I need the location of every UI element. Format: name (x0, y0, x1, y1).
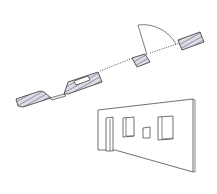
window-small (143, 127, 150, 138)
wall-segment-3 (132, 54, 150, 67)
window-1 (123, 117, 134, 137)
door-opening (106, 117, 113, 151)
window-3 (158, 116, 173, 140)
door-leaf (138, 25, 147, 55)
wall-segment-4 (178, 32, 204, 50)
diagram-canvas (0, 0, 217, 194)
sill (50, 94, 66, 100)
plan-view (16, 25, 204, 107)
elevation-view (98, 99, 195, 172)
opening-line-2 (150, 43, 180, 53)
door-swing-arc (138, 25, 176, 44)
wall-segment-2 (64, 72, 102, 94)
opening-line-1 (100, 58, 133, 71)
wall-segment-1 (16, 91, 51, 107)
